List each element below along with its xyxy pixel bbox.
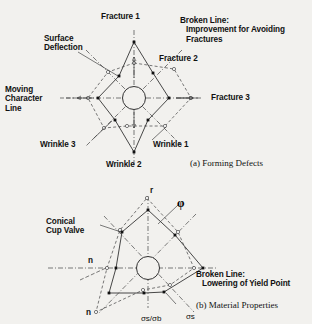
- label-fracture-3: Fracture 3: [211, 93, 250, 102]
- label-wrinkle-1: Wrinkle 1: [153, 140, 188, 149]
- label-wrinkle-2: Wrinkle 2: [106, 160, 141, 169]
- label-sigma-ratio: σs/σb: [132, 305, 161, 324]
- figure-root: Fracture 1 Fracture 2 Fracture 3 Wrinkle…: [0, 0, 312, 324]
- conical-line-1: Conical: [46, 217, 84, 226]
- label-fracture-1: Fracture 1: [101, 12, 140, 21]
- center-hub-a: [123, 87, 146, 110]
- sigma-ratio-text: σs/σb: [141, 314, 162, 323]
- legend-a-line-3: Fractures: [186, 35, 285, 44]
- series-dashed-b: [94, 196, 195, 313]
- surface-deflection-line-2: Deflection: [44, 43, 83, 52]
- label-phi: φ: [177, 196, 185, 211]
- legend-panel-b: Broken Line: Lowering of Yield Point: [196, 270, 290, 289]
- legend-b-line-1: Broken Line:: [196, 270, 290, 279]
- center-hub-b: [137, 257, 160, 280]
- moving-character-line-2: Character: [5, 94, 42, 103]
- caption-panel-a: (a) Forming Defects: [190, 158, 263, 168]
- radar-chart-b: [48, 196, 218, 314]
- label-wrinkle-3: Wrinkle 3: [40, 140, 75, 149]
- sigma-s-text: σs: [186, 312, 195, 321]
- series-solid-b: [108, 209, 205, 295]
- leader-lines-b: [100, 205, 178, 304]
- conical-line-2: Cup Valve: [46, 226, 84, 235]
- leader-dashed-b: [80, 268, 106, 280]
- surface-deflection-line-1: Surface: [44, 34, 83, 43]
- legend-panel-a: Broken Line: Improvement for Avoiding Fr…: [180, 16, 285, 44]
- moving-character-line-3: Line: [5, 104, 42, 113]
- legend-a-line-1: Broken Line:: [180, 16, 285, 25]
- legend-b-line-2: Lowering of Yield Point: [202, 279, 290, 288]
- moving-character-line-1: Moving: [5, 85, 42, 94]
- caption-panel-b: (b) Material Properties: [196, 300, 278, 310]
- label-surface-deflection: Surface Deflection: [44, 34, 83, 53]
- label-n-left: n: [88, 256, 93, 265]
- label-n-bottom: n: [86, 308, 91, 317]
- label-conical-cup-valve: Conical Cup Valve: [46, 217, 84, 236]
- label-sigma-s: σs: [177, 303, 195, 324]
- label-fracture-2: Fracture 2: [159, 54, 198, 63]
- label-r: r: [150, 186, 153, 195]
- legend-a-line-2: Improvement for Avoiding: [186, 25, 285, 34]
- label-moving-character-line: Moving Character Line: [5, 85, 42, 113]
